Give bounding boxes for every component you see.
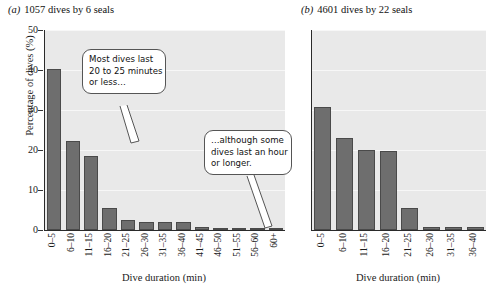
callout-although-some: …although some dives last an hour or lon… <box>204 130 292 175</box>
callout-most-dives: Most dives last 20 to 25 minutes or less… <box>82 49 166 94</box>
callout-1-line-1: Most dives last <box>89 54 159 66</box>
callout-2-line-2: dives last an hour <box>211 147 285 159</box>
callout-1-line-3: or less… <box>89 77 159 89</box>
callout-1-line-2: 20 to 25 minutes <box>89 66 159 78</box>
callout-2-line-1: …although some <box>211 135 285 147</box>
callout-2-line-3: or longer. <box>211 158 285 170</box>
seal-dive-duration-figure: (a)1057 dives by 6 seals (b)4601 dives b… <box>0 0 503 292</box>
